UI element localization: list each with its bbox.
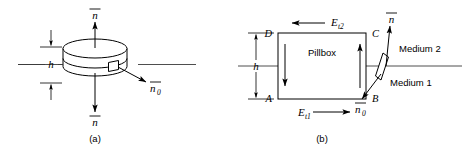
figure-svg: h n n n 0 (a) Pillbox D C [0,0,465,148]
normal-label-n-b: n [389,13,395,25]
medium-2-label: Medium 2 [399,43,441,54]
height-label-a: h [48,58,54,70]
field-label-Et1: E [297,106,305,118]
panel-a: h n n n 0 (a) [18,9,196,144]
normal-label-top: n [92,9,98,21]
panel-a-caption: (a) [89,133,101,144]
height-label-b: h [253,60,259,72]
normal-vector-n0-arrow [118,67,146,82]
corner-label-B: B [372,93,379,104]
normal-label-n0-subscript: 0 [157,88,161,97]
surface-patch-a [109,61,119,72]
field-label-Et2-subscript: t2 [338,22,344,31]
field-label-Et2: E [330,16,338,28]
pillbox-rect [278,33,366,99]
normal-label-bottom: n [92,116,98,128]
normal-label-n0-b: n [355,103,361,115]
normal-label-n0-b-subscript: 0 [362,109,366,118]
pillbox-label: Pillbox [308,47,336,58]
field-label-Et1-subscript: t1 [305,112,311,121]
panel-b-caption: (b) [316,133,328,144]
corner-label-C: C [372,28,380,39]
panel-b: Pillbox D C A B E t2 E t1 h [238,13,462,144]
normal-label-n0: n [150,82,156,94]
medium-1-label: Medium 1 [390,77,432,88]
corner-label-D: D [263,28,272,39]
corner-label-A: A [265,93,273,104]
figure-root: h n n n 0 (a) Pillbox D C [0,0,465,148]
